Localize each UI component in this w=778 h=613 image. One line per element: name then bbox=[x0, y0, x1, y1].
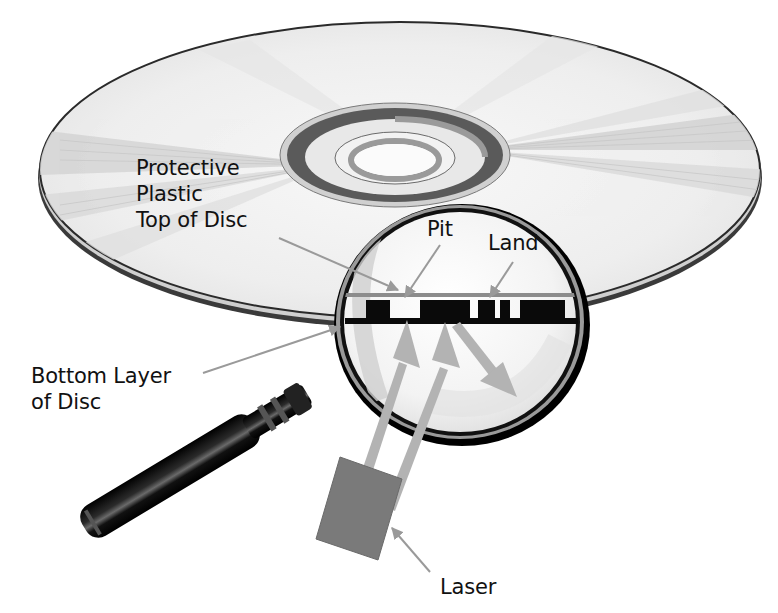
label-pit: Pit bbox=[427, 216, 453, 242]
disc-hub bbox=[280, 103, 510, 207]
label-bottom-layer: Bottom Layer of Disc bbox=[31, 363, 171, 415]
protective-layer-line bbox=[340, 293, 580, 297]
label-land: Land bbox=[488, 230, 538, 256]
leader-laser bbox=[392, 528, 430, 572]
label-protective-plastic: Protective Plastic Top of Disc bbox=[136, 155, 247, 233]
label-laser: Laser bbox=[440, 574, 496, 600]
pit-land-track bbox=[345, 300, 585, 324]
laser-emitter bbox=[316, 457, 402, 560]
leader-bottom-layer bbox=[203, 327, 340, 373]
cd-diagram bbox=[0, 0, 778, 613]
